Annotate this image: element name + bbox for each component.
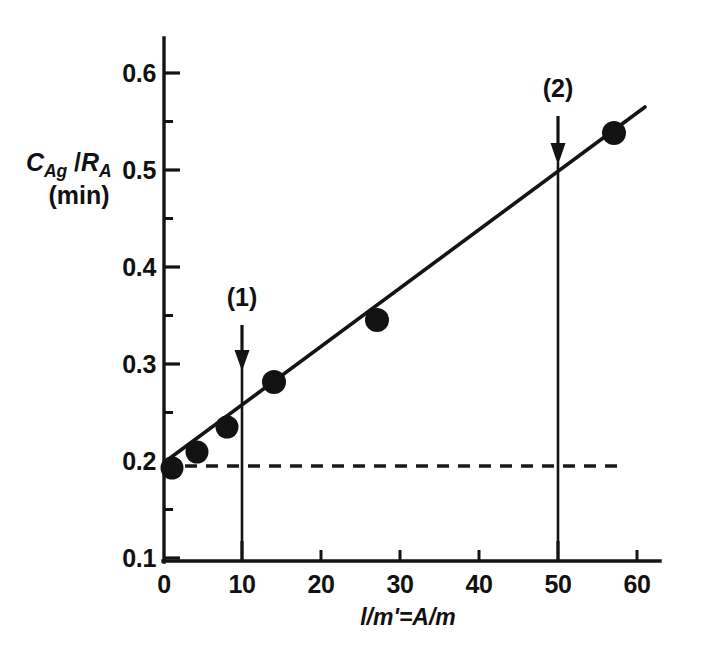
x-tick-label-20: 20 [295, 570, 347, 599]
data-point [602, 121, 626, 145]
data-point [365, 308, 389, 332]
x-tick-label-50: 50 [532, 570, 584, 599]
annotation-2-arrow [551, 116, 566, 165]
y-axis-title: CAg /RA (min) [18, 148, 156, 211]
y-axis-title-ag: Ag [44, 161, 67, 181]
y-axis-title-units: (min) [18, 181, 156, 211]
y-tick-label-0.4: 0.4 [88, 253, 156, 282]
data-point [262, 370, 286, 394]
annotation-1-arrow [235, 325, 250, 371]
y-tick-label-0.1: 0.1 [88, 544, 156, 573]
x-axis-title: l/m'=A/m [283, 604, 533, 631]
y-axis-title-slash: / [67, 148, 81, 176]
chart-figure: 0.6 0.5 0.4 0.3 0.2 0.1 0 10 20 30 40 50… [0, 0, 719, 670]
data-point [161, 457, 184, 480]
y-tick-label-0.6: 0.6 [88, 59, 156, 88]
y-axis-title-c: C [26, 148, 44, 176]
y-axis-title-a: A [99, 161, 111, 181]
x-tick-label-40: 40 [453, 570, 505, 599]
y-tick-label-0.3: 0.3 [88, 350, 156, 379]
annotation-label-2: (2) [528, 74, 588, 103]
y-axis-title-r: R [81, 148, 99, 176]
x-tick-label-30: 30 [374, 570, 426, 599]
data-point [186, 441, 209, 464]
x-tick-label-60: 60 [611, 570, 663, 599]
x-tick-label-10: 10 [216, 570, 268, 599]
y-tick-label-0.2: 0.2 [88, 447, 156, 476]
data-point [216, 416, 239, 439]
annotation-label-1: (1) [212, 283, 272, 312]
x-tick-label-0: 0 [144, 570, 184, 599]
